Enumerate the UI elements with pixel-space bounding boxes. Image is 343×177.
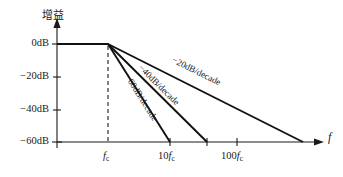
asymptote-minus-40db-per-decade — [108, 44, 207, 142]
x-tick-label-100fc-prefix: 100 — [221, 150, 237, 161]
y-axis-label: 增益 — [42, 6, 64, 22]
x-axis-arrow-icon — [314, 138, 324, 145]
x-axis-label: f — [328, 130, 331, 145]
y-tick-label-minus60db: −60dB — [8, 135, 49, 146]
x-tick-label-10fc-subscript: c — [171, 154, 174, 163]
x-tick-label-fc-subscript: c — [106, 154, 109, 163]
x-tick-label-fc: fc — [103, 150, 109, 161]
bode-plot-figure: 增益 0dB −20dB −40dB −60dB fc 10fc 100fc f… — [0, 0, 343, 177]
x-tick-label-100fc: 100fc — [221, 150, 243, 161]
y-tick-label-minus40db: −40dB — [8, 103, 49, 114]
x-tick-label-100fc-subscript: c — [240, 154, 243, 163]
x-tick-label-10fc-prefix: 10 — [158, 150, 169, 161]
y-tick-label-0db: 0dB — [8, 37, 49, 48]
y-tick-label-minus20db: −20dB — [8, 70, 49, 81]
x-tick-label-10fc: 10fc — [158, 150, 175, 161]
